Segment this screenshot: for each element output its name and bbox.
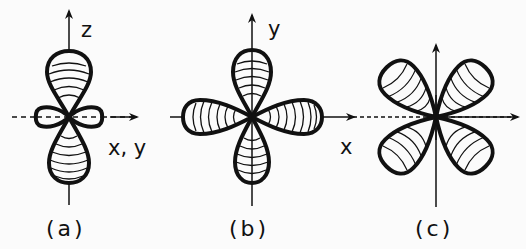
panel-a-vertical-axis-label: z [81, 20, 92, 41]
panel-a-horizontal-axis-label: x, y [108, 138, 146, 159]
panel-b-horizontal-axis-label: x [340, 137, 352, 158]
panel-a-caption: (a) [46, 218, 86, 240]
panel-b-vertical-axis-label: y [268, 19, 280, 40]
panel-a-orbital [12, 11, 137, 205]
panel-b-orbital [170, 15, 354, 206]
panel-c-caption: (c) [415, 218, 453, 240]
panel-b-caption: (b) [229, 218, 269, 240]
orbital-diagram [0, 0, 526, 249]
panel-c-orbital [353, 45, 518, 207]
